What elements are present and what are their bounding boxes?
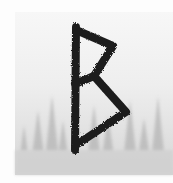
berkano-rune-image bbox=[0, 0, 173, 183]
rune-illustration bbox=[0, 0, 173, 183]
